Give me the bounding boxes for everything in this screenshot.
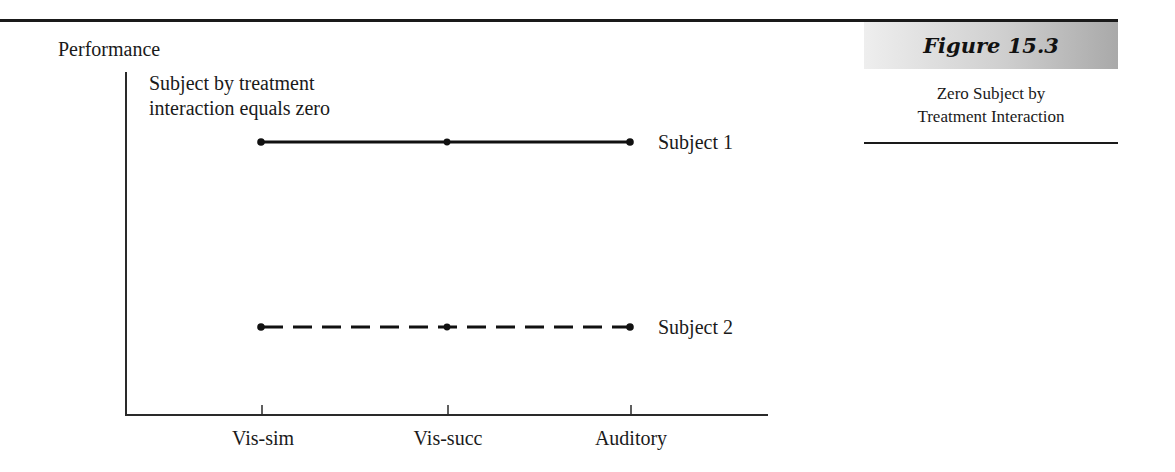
figure-caption: Zero Subject by Treatment Interaction — [864, 82, 1118, 128]
plot-area — [0, 0, 1175, 472]
series-label-subject-2: Subject 2 — [658, 315, 733, 339]
figure-caption-line-1: Zero Subject by — [864, 82, 1118, 105]
x-tick-label-auditory: Auditory — [595, 426, 667, 450]
series-subject-1 — [257, 138, 634, 146]
data-point — [444, 139, 451, 146]
figure-caption-line-2: Treatment Interaction — [864, 105, 1118, 128]
x-tick-label-vis-succ: Vis-succ — [414, 426, 483, 450]
x-tick-label-vis-sim: Vis-sim — [232, 426, 294, 450]
data-point — [626, 323, 634, 331]
data-point — [626, 138, 634, 146]
figure-number: Figure 15.3 — [864, 22, 1118, 69]
data-point — [444, 324, 451, 331]
caption-rule — [864, 142, 1118, 144]
data-point — [257, 138, 265, 146]
figure-number-box: Figure 15.3 — [864, 22, 1118, 69]
series-label-subject-1: Subject 1 — [658, 130, 733, 154]
data-point — [257, 323, 265, 331]
series-subject-2 — [257, 323, 634, 331]
